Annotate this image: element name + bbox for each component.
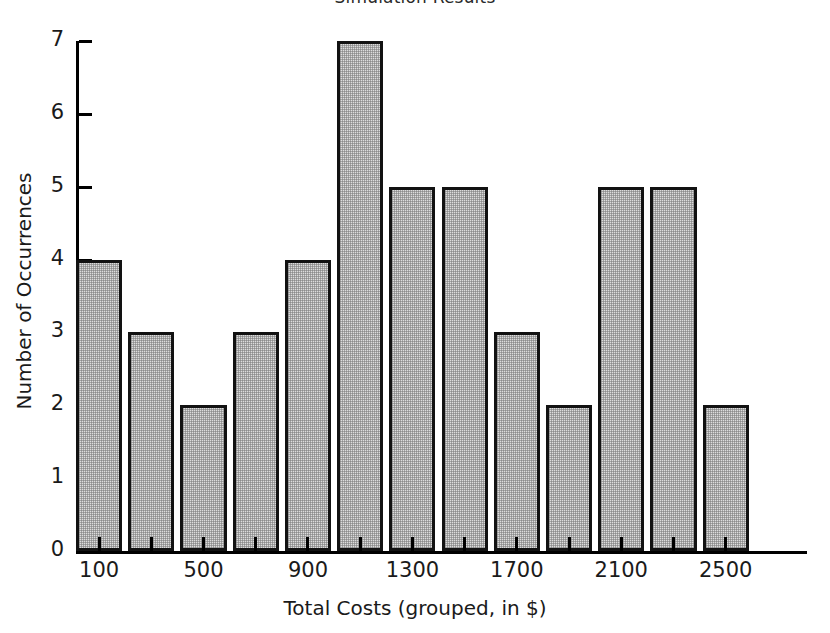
bar-2300 (650, 187, 696, 551)
x-tick-2300 (672, 537, 675, 551)
bar-900 (285, 260, 331, 551)
bar-1300 (389, 187, 435, 551)
x-tick-label-2100: 2100 (561, 558, 681, 582)
bar-2100 (598, 187, 644, 551)
x-tick-300 (150, 537, 153, 551)
y-tick-5 (79, 186, 92, 189)
x-tick-label-900: 900 (248, 558, 368, 582)
bar-1500 (442, 187, 488, 551)
x-tick-1500 (463, 537, 466, 551)
x-tick-label-1700: 1700 (457, 558, 577, 582)
x-tick-2500 (724, 537, 727, 551)
y-tick-label-7: 7 (18, 29, 64, 50)
bar-300 (128, 332, 174, 551)
bar-100 (76, 260, 122, 551)
x-axis-line (76, 551, 807, 554)
bar-1700 (494, 332, 540, 551)
x-tick-1700 (515, 537, 518, 551)
x-tick-label-500: 500 (144, 558, 264, 582)
x-axis-title: Total Costs (grouped, in $) (0, 596, 830, 620)
y-tick-label-0: 0 (18, 539, 64, 560)
x-tick-900 (306, 537, 309, 551)
bar-500 (180, 405, 226, 551)
x-tick-100 (98, 537, 101, 551)
x-tick-1300 (411, 537, 414, 551)
x-tick-1900 (568, 537, 571, 551)
chart-title: Simulation Results (0, 0, 830, 7)
x-tick-label-2500: 2500 (666, 558, 786, 582)
histogram-figure: Simulation Results 01234567 100500900130… (0, 0, 830, 633)
x-tick-1100 (359, 537, 362, 551)
y-axis-title: Number of Occurrences (12, 61, 36, 521)
x-tick-700 (254, 537, 257, 551)
x-tick-label-1300: 1300 (352, 558, 472, 582)
bar-700 (233, 332, 279, 551)
y-tick-7 (79, 40, 92, 43)
x-tick-label-100: 100 (39, 558, 159, 582)
bar-2500 (703, 405, 749, 551)
bar-1100 (337, 41, 383, 551)
x-tick-2100 (620, 537, 623, 551)
bar-1900 (546, 405, 592, 551)
y-tick-6 (79, 113, 92, 116)
x-tick-500 (202, 537, 205, 551)
